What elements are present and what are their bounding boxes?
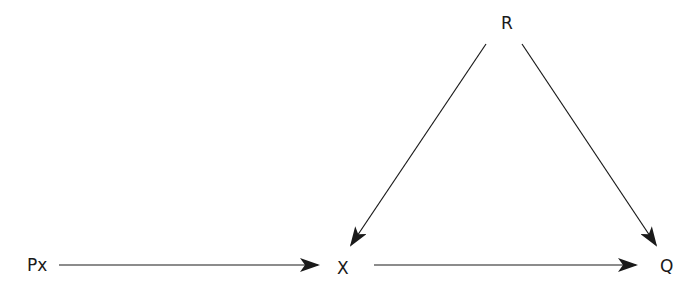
node-px: Px — [27, 257, 47, 274]
node-r: R — [501, 15, 513, 32]
edge-r-to-q — [522, 44, 656, 245]
node-x: X — [337, 260, 349, 277]
edge-r-to-x — [351, 44, 486, 245]
diagram-canvas — [0, 0, 700, 297]
node-q: Q — [660, 258, 673, 275]
